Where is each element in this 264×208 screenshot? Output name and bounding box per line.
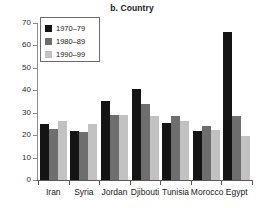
legend-item: 1970–79 xyxy=(45,22,99,34)
bar xyxy=(211,130,220,180)
x-tick-mark xyxy=(252,181,253,185)
x-axis-label-tunisia: Tunisia xyxy=(160,187,191,197)
x-tick-mark xyxy=(160,181,161,185)
bar xyxy=(40,124,49,180)
y-tick-label: 60 xyxy=(11,41,31,49)
y-tick-label: 10 xyxy=(11,154,31,162)
bar xyxy=(110,115,119,180)
x-tick-mark xyxy=(38,181,39,185)
bar xyxy=(101,101,110,180)
y-tick-mark xyxy=(33,90,37,91)
bar xyxy=(180,121,189,180)
bar xyxy=(70,131,79,180)
bar xyxy=(88,124,97,180)
bar xyxy=(241,136,250,180)
bar xyxy=(232,116,241,180)
x-tick-mark xyxy=(130,181,131,185)
bar xyxy=(193,131,202,180)
x-axis-label-syria: Syria xyxy=(69,187,100,197)
bar-group xyxy=(132,23,159,180)
bar xyxy=(223,32,232,180)
bar-group xyxy=(193,23,220,180)
legend-item: 1980–89 xyxy=(45,35,99,47)
x-axis-label-djibouti: Djibouti xyxy=(130,187,161,197)
x-tick-mark xyxy=(221,181,222,185)
bar xyxy=(150,116,159,180)
bar xyxy=(162,123,171,180)
x-axis-label-morocco: Morocco xyxy=(191,187,222,197)
x-tick-mark xyxy=(191,181,192,185)
legend-label: 1990–99 xyxy=(56,50,85,59)
legend-label: 1980–89 xyxy=(56,37,85,46)
legend-swatch-icon xyxy=(45,25,52,32)
bar xyxy=(49,129,58,180)
bar-group xyxy=(162,23,189,180)
y-tick-mark xyxy=(33,45,37,46)
bar xyxy=(79,132,88,180)
x-axis-label-egypt: Egypt xyxy=(221,187,252,197)
y-tick-mark xyxy=(33,23,37,24)
y-tick-label: 0 xyxy=(11,176,31,184)
legend-swatch-icon xyxy=(45,38,52,45)
y-tick-label: 20 xyxy=(11,131,31,139)
y-tick-label: 50 xyxy=(11,64,31,72)
y-tick-mark xyxy=(33,68,37,69)
legend-swatch-icon xyxy=(45,51,52,58)
bar-group xyxy=(101,23,128,180)
y-tick-label: 40 xyxy=(11,86,31,94)
chart-title: b. Country xyxy=(0,3,264,13)
bar-chart-panel: b. Country 010203040506070 IranSyriaJord… xyxy=(0,0,264,208)
legend-item: 1990–99 xyxy=(45,48,99,60)
y-tick-label: 30 xyxy=(11,109,31,117)
y-tick-mark xyxy=(33,158,37,159)
y-tick-mark xyxy=(33,180,37,181)
chart-legend: 1970–791980–891990–99 xyxy=(40,17,100,62)
x-tick-mark xyxy=(69,181,70,185)
bar xyxy=(202,126,211,180)
x-axis-label-iran: Iran xyxy=(38,187,69,197)
bar xyxy=(58,121,67,180)
bar xyxy=(141,104,150,180)
y-tick-mark xyxy=(33,135,37,136)
legend-label: 1970–79 xyxy=(56,24,85,33)
y-tick-mark xyxy=(33,113,37,114)
bar xyxy=(132,89,141,180)
x-axis-label-jordan: Jordan xyxy=(99,187,130,197)
bar xyxy=(119,115,128,180)
bar-group xyxy=(223,23,250,180)
y-tick-label: 70 xyxy=(11,19,31,27)
bar xyxy=(171,116,180,180)
x-tick-mark xyxy=(99,181,100,185)
